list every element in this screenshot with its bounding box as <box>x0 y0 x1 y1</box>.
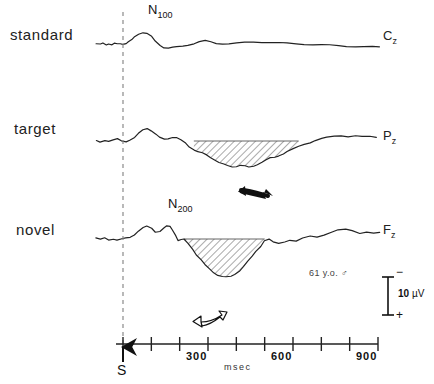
electrode-sub-fz: z <box>391 230 396 240</box>
component-sub-n100: 100 <box>157 10 172 20</box>
electrode-label-cz: Cz <box>383 28 397 46</box>
amplitude-scale-bar <box>382 277 394 315</box>
electrode-label-pz: Pz <box>383 128 396 146</box>
target-trough-filled-arrow <box>238 186 273 199</box>
component-name-n100: N <box>148 2 157 17</box>
electrode-sub-pz: z <box>392 136 397 146</box>
electrode-sub-cz: z <box>392 36 397 46</box>
scale-positive-sign: + <box>396 308 403 322</box>
condition-label-novel: novel <box>16 221 55 238</box>
condition-label-standard: standard <box>10 26 73 43</box>
erp-plot-svg <box>0 0 434 384</box>
electrode-letter-cz: C <box>383 28 392 43</box>
scale-bar-label: 10 µV <box>398 288 424 299</box>
scale-bar-value: 10 <box>398 288 409 299</box>
scale-bar-unit: µV <box>412 288 424 299</box>
waveform-standard <box>96 33 379 48</box>
novel-trough-outline-arrow <box>193 311 227 327</box>
component-sub-n200: 200 <box>177 204 192 214</box>
component-name-n200: N <box>168 196 177 211</box>
shaded-region-novel <box>184 239 265 277</box>
axis-tick-label-900: 900 <box>356 350 377 362</box>
axis-unit-label: msec <box>224 362 252 372</box>
component-label-n100: N100 <box>148 2 172 20</box>
axis-tick-label-600: 600 <box>271 350 292 362</box>
electrode-label-fz: Fz <box>383 222 395 240</box>
electrode-letter-fz: F <box>383 222 391 237</box>
erp-figure: standard target novel Cz Pz Fz N100 N200… <box>0 0 434 384</box>
electrode-letter-pz: P <box>383 128 392 143</box>
condition-label-target: target <box>14 120 56 137</box>
stimulus-marker-label: S <box>117 362 126 378</box>
component-label-n200: N200 <box>168 196 192 214</box>
axis-tick-label-300: 300 <box>186 350 207 362</box>
scale-negative-sign: − <box>396 265 403 279</box>
subject-annotation: 61 y.o. ♂ <box>309 268 348 278</box>
time-axis <box>116 337 378 351</box>
waveform-group <box>96 33 380 277</box>
